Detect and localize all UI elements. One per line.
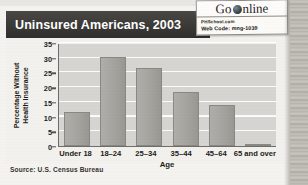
bar-chart: Percentage Without Health Insurance 0510… [6, 38, 284, 163]
plot-area [58, 44, 276, 147]
bar[interactable] [245, 144, 271, 146]
bar[interactable] [173, 92, 199, 146]
web-code-label: Web Code: mng-1039 [197, 23, 287, 31]
y-axis-tick-mark [52, 117, 56, 118]
bar-slot [95, 44, 131, 146]
gridline [59, 42, 276, 43]
y-axis-title: Percentage Without Health Insurance [12, 44, 32, 147]
y-axis-tick-mark [52, 87, 56, 88]
plot-area-wrapper [58, 44, 276, 147]
y-axis-tick-mark [52, 132, 56, 133]
bar[interactable] [209, 105, 235, 146]
chart-title-bar: Uninsured Americans, 2003 [6, 11, 210, 38]
bar-slot [204, 44, 240, 146]
globe-icon [233, 5, 242, 14]
bar[interactable] [136, 68, 162, 146]
y-axis-tick-label: 20 [44, 84, 52, 93]
y-axis-tick-mark [52, 146, 56, 147]
bar-slot [131, 44, 167, 146]
y-axis-tick-label: 15 [44, 98, 52, 107]
go-online-logo: Go nline [197, 1, 287, 18]
page-edge-shadow [284, 0, 290, 185]
bar-slot [168, 44, 204, 146]
page-edge-strip [290, 0, 308, 185]
bar[interactable] [100, 57, 126, 146]
y-axis-tick-mark [52, 43, 56, 44]
y-axis-tick-label: 30 [44, 54, 52, 63]
y-axis-tick-mark [52, 73, 56, 74]
go-label: Go [215, 2, 231, 15]
y-axis-tick-mark [52, 58, 56, 59]
bar[interactable] [64, 112, 90, 146]
y-axis-title-line2: Health Insurance [22, 67, 31, 123]
y-axis-title-line1: Percentage Without [13, 63, 22, 129]
online-label: nline [242, 2, 268, 15]
bar-slot [240, 44, 276, 146]
y-axis-tick-label: 10 [44, 113, 52, 122]
bar-series [59, 44, 276, 146]
scanned-page: Uninsured Americans, 2003 Go nline PHSch… [0, 0, 308, 185]
source-note: Source: U.S. Census Bureau [10, 166, 103, 173]
go-online-badge[interactable]: Go nline PHSchool.com Web Code: mng-1039 [196, 0, 288, 35]
page-title: Uninsured Americans, 2003 [6, 18, 181, 32]
y-axis-ticks: 05101520253035 [36, 44, 56, 147]
y-axis-tick-label: 25 [44, 69, 52, 78]
y-axis-tick-mark [52, 102, 56, 103]
bar-slot [59, 44, 95, 146]
y-axis-tick-label: 35 [44, 40, 52, 49]
